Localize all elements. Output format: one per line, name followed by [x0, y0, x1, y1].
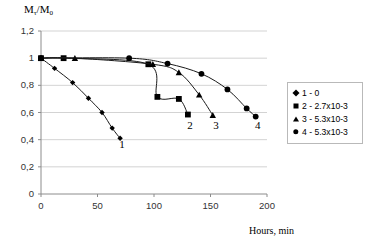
circle-marker-icon	[291, 127, 301, 137]
data-point-square	[185, 112, 191, 118]
legend-label-3: 3 - 5.3x10-3	[302, 114, 348, 124]
triangle-marker-icon	[291, 114, 301, 124]
y-tick-label: 0,2	[8, 161, 34, 172]
y-tick-label: 1,2	[8, 25, 34, 36]
y-tick-label: 0	[8, 188, 34, 199]
data-point-square	[176, 96, 182, 102]
x-tick-label: 0	[26, 200, 56, 211]
data-point-circle	[126, 55, 132, 61]
y-tick-label: 0,6	[8, 107, 34, 118]
series-1	[38, 55, 123, 141]
x-tick-label: 50	[83, 200, 113, 211]
chart-legend: 1 - 0 2 - 2.7x10-3 3 - 5.3x10-3 4 - 5.3x…	[287, 82, 363, 144]
x-tick-label: 200	[252, 200, 282, 211]
legend-item-4: 4 - 5.3x10-3	[291, 125, 362, 138]
x-axis-title: Hours, min	[249, 225, 294, 236]
chart-container: Mτ/M0 Hours, min 1 - 0 2 - 2.7x10-3 3 - …	[0, 0, 368, 247]
legend-item-1: 1 - 0	[291, 86, 362, 99]
legend-label-4: 4 - 5.3x10-3	[302, 127, 348, 137]
data-point-circle	[165, 61, 171, 67]
curve-number-label: 2	[187, 119, 193, 131]
data-point-circle	[38, 55, 44, 61]
data-point-triangle	[210, 112, 216, 118]
series-line	[41, 58, 120, 138]
square-marker-icon	[291, 101, 301, 111]
data-point-circle	[225, 87, 231, 93]
legend-item-2: 2 - 2.7x10-3	[291, 99, 362, 112]
data-point-triangle	[176, 69, 182, 75]
curve-number-label: 3	[213, 119, 219, 131]
y-tick-label: 0,8	[8, 79, 34, 90]
data-point-circle	[244, 106, 250, 112]
data-point-circle	[199, 71, 205, 77]
x-tick-label: 150	[196, 200, 226, 211]
x-tick-label: 100	[139, 200, 169, 211]
curve-number-label: 4	[255, 119, 261, 131]
diamond-marker-icon	[291, 88, 301, 98]
y-tick-label: 1	[8, 52, 34, 63]
series-3	[38, 55, 216, 118]
y-tick-label: 0,4	[8, 134, 34, 145]
series-line	[41, 58, 213, 116]
legend-label-2: 2 - 2.7x10-3	[302, 101, 348, 111]
legend-item-3: 3 - 5.3x10-3	[291, 112, 362, 125]
legend-label-1: 1 - 0	[302, 88, 319, 98]
curve-number-label: 1	[119, 138, 125, 150]
data-point-square	[154, 94, 160, 100]
